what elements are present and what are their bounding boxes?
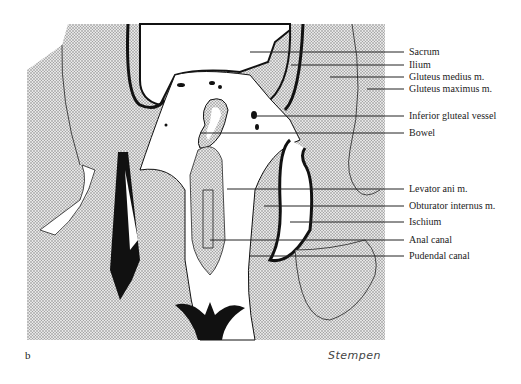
label-bowel: Bowel xyxy=(409,127,435,139)
label-pudendal-canal: Pudendal canal xyxy=(409,250,470,262)
label-inferior-gluteal-vessel: Inferior gluteal vessel xyxy=(409,110,496,122)
label-gluteus-medius: Gluteus medius m. xyxy=(409,71,484,83)
anatomical-figure: Sacrum Ilium Gluteus medius m. Gluteus m… xyxy=(0,0,521,384)
label-ischium: Ischium xyxy=(409,216,441,228)
label-obturator-internus: Obturator internus m. xyxy=(409,200,495,212)
label-anal-canal: Anal canal xyxy=(409,234,452,246)
label-gluteus-maximus: Gluteus maximus m. xyxy=(409,83,492,95)
label-ilium: Ilium xyxy=(409,59,431,71)
panel-letter: b xyxy=(25,349,31,361)
label-levator-ani: Levator ani m. xyxy=(409,183,468,195)
artist-signature: Stempen xyxy=(328,349,381,362)
label-sacrum: Sacrum xyxy=(409,46,440,58)
